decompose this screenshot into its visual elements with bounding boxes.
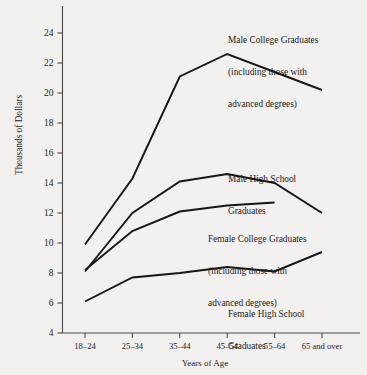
y-tick-label: 8 — [49, 268, 54, 278]
annotation-male-college-line2: (including those with — [228, 67, 318, 78]
annotation-female-hs-line1: Female High School — [228, 309, 304, 320]
chart-container: 4681012141618202224 18–2425–3435–4445–54… — [0, 0, 367, 375]
y-tick-label: 16 — [44, 148, 54, 158]
y-tick-label: 10 — [44, 238, 54, 248]
annotation-female-college-line2: (including those with — [208, 266, 307, 277]
x-axis-title: Years of Age — [182, 358, 229, 368]
y-tick-label: 4 — [49, 328, 54, 338]
y-tick-label: 6 — [49, 298, 54, 308]
y-axis-ticks: 4681012141618202224 — [44, 28, 63, 338]
x-tick-label: 25–34 — [122, 341, 144, 351]
y-tick-label: 14 — [44, 178, 54, 188]
y-tick-label: 20 — [44, 88, 54, 98]
annotation-female-high-school: Female High School Graduates — [228, 288, 304, 373]
y-axis-title: Thousands of Dollars — [14, 70, 24, 200]
annotation-female-hs-line2: Graduates — [228, 341, 304, 352]
annotation-female-college-line1: Female College Graduates — [208, 234, 307, 245]
y-tick-label: 18 — [44, 118, 54, 128]
x-tick-label: 35–44 — [169, 341, 191, 351]
y-tick-label: 22 — [44, 58, 54, 68]
y-tick-label: 12 — [44, 208, 54, 218]
annotation-male-college: Male College Graduates (including those … — [228, 14, 318, 131]
x-tick-label: 18–24 — [74, 341, 96, 351]
annotation-male-college-line1: Male College Graduates — [228, 35, 318, 46]
annotation-male-college-line3: advanced degrees) — [228, 99, 318, 110]
x-tick-label: 65 and over — [302, 341, 343, 351]
y-tick-label: 24 — [44, 28, 54, 38]
annotation-male-hs-line1: Male High School — [228, 174, 296, 185]
